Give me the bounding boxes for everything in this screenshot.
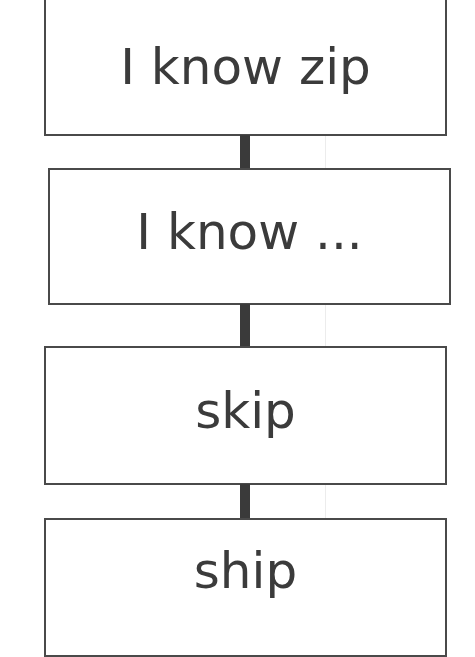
flow-box-1: I know zip: [44, 0, 447, 136]
flow-box-2: I know ...: [48, 168, 451, 305]
flow-box-label: skip: [195, 382, 296, 440]
connector-2: [240, 304, 250, 348]
flow-box-label: I know zip: [120, 38, 371, 96]
flow-box-4: ship: [44, 518, 447, 657]
flow-box-label: ship: [194, 542, 297, 600]
connector-3: [240, 484, 250, 520]
flow-box-label: I know ...: [136, 203, 362, 261]
connector-1: [240, 135, 250, 170]
flow-box-3: skip: [44, 346, 447, 485]
